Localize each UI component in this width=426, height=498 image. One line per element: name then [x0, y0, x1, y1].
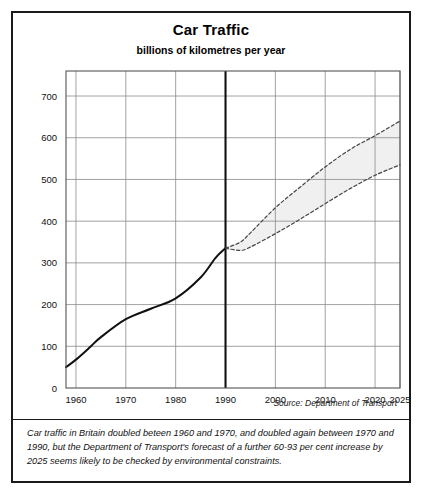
x-tick-label: 1980	[165, 394, 186, 405]
y-tick-label: 100	[41, 341, 57, 352]
y-tick-label: 200	[41, 299, 57, 310]
source-attribution: Source: Department of Transport	[273, 398, 397, 408]
y-tick-label: 500	[41, 174, 57, 185]
y-tick-label: 300	[41, 257, 57, 268]
y-tick-label: 600	[41, 132, 57, 143]
figure-card: Car Traffic billions of kilometres per y…	[11, 11, 411, 483]
y-tick-label: 700	[41, 91, 57, 102]
x-tick-label: 1960	[65, 394, 86, 405]
y-tick-label: 400	[41, 216, 57, 227]
chart-subtitle: billions of kilometres per year	[13, 44, 409, 56]
x-tick-label: 1970	[115, 394, 136, 405]
x-tick-label: 1990	[215, 394, 236, 405]
figure-caption: Car traffic in Britain doubled beteen 19…	[27, 427, 397, 469]
chart-area: Car Traffic billions of kilometres per y…	[13, 13, 409, 417]
caption-divider	[13, 419, 409, 420]
chart-title: Car Traffic	[13, 21, 409, 38]
chart-plot: 0100200300400500600700 19601970198019902…	[13, 57, 409, 407]
y-axis-tick-labels: 0100200300400500600700	[41, 91, 57, 394]
y-tick-label: 0	[52, 383, 57, 394]
plot-background	[66, 71, 400, 388]
